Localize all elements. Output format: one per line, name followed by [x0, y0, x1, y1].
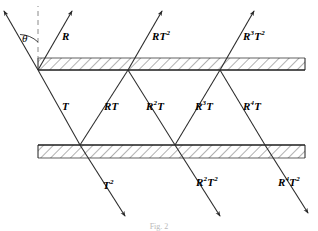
label-T2-base: T — [103, 179, 110, 191]
label-R4T: R4T — [243, 101, 261, 112]
label-T2-sup: 2 — [110, 178, 114, 186]
label-R4T-base: R — [243, 100, 251, 112]
internal-ray-T — [38, 70, 80, 145]
label-R2T-base2: T — [157, 100, 164, 112]
label-R4T-base2: T — [254, 100, 261, 112]
label-T-base: T — [62, 100, 69, 112]
label-R4T2-base: R — [278, 176, 286, 188]
label-R2T2-base: R — [196, 176, 204, 188]
top-surface — [38, 58, 305, 70]
label-R3T2-base: R — [243, 30, 251, 42]
label-R2T-base: R — [146, 100, 154, 112]
label-R: R — [62, 31, 70, 42]
label-RT-base: RT — [104, 100, 118, 112]
label-R3T-base2: T — [206, 100, 213, 112]
label-R-base: R — [62, 30, 70, 42]
label-R4T2-sup2: 2 — [296, 175, 300, 183]
figure-caption: Fig. 2 — [0, 222, 318, 231]
incident-ray — [4, 11, 38, 70]
label-R3T2-sup2: 2 — [261, 29, 265, 37]
label-RT2: RT2 — [152, 31, 170, 42]
label-RT: RT — [104, 101, 118, 112]
label-T: T — [62, 101, 69, 112]
label-R4T2: R4T2 — [278, 177, 300, 188]
label-RT2-base: RT — [152, 30, 166, 42]
label-R2T2-sup2: 2 — [214, 175, 218, 183]
label-R3T-base: R — [195, 100, 203, 112]
angle-theta-label: θ — [22, 32, 27, 44]
label-T2: T2 — [103, 180, 114, 191]
ray-diagram-figure: θ R RT2 R3T2 T RT R2T R3T R4T T2 R2T2 R4… — [0, 0, 318, 231]
label-R3T: R3T — [195, 101, 213, 112]
label-R2T2: R2T2 — [196, 177, 218, 188]
label-RT2-sup: 2 — [166, 29, 170, 37]
label-R2T: R2T — [146, 101, 164, 112]
bottom-surface — [38, 145, 305, 158]
label-R3T2: R3T2 — [243, 31, 265, 42]
